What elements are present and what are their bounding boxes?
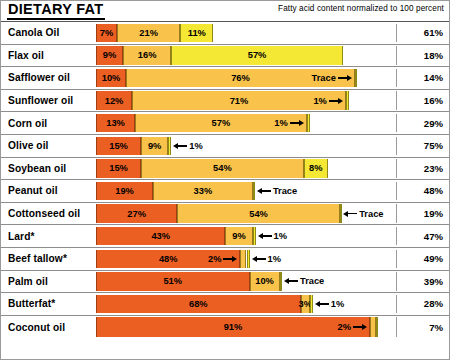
bar-segment-mono[interactable]: 33% xyxy=(153,182,252,200)
segment-value-label: 57% xyxy=(248,50,267,60)
bar-segment-poly[interactable] xyxy=(346,91,349,109)
row-label: Palm oil xyxy=(8,271,48,293)
bar-segment-sat[interactable]: 19% xyxy=(96,182,153,200)
segment-value-label: 76% xyxy=(231,73,250,83)
table-row[interactable]: Palm oil51%10%Trace39% xyxy=(1,271,449,294)
bar-segment-sat[interactable]: 10% xyxy=(96,69,126,87)
segment-value-label: 57% xyxy=(212,118,231,128)
row-remainder-value: 29% xyxy=(424,112,443,134)
chart-subtitle: Fatty acid content normalized to 100 per… xyxy=(278,4,444,13)
row-label: Butterfat* xyxy=(8,293,55,315)
dietary-fat-chart: DIETARY FAT Fatty acid content normalize… xyxy=(0,0,450,360)
segment-value-label: 16% xyxy=(138,50,157,60)
row-label: Peanut oil xyxy=(8,180,58,202)
row-label: Sunflower oil xyxy=(8,90,73,112)
segment-value-label: 68% xyxy=(189,299,208,309)
row-remainder-value: 61% xyxy=(424,22,443,44)
row-label: Soybean oil xyxy=(8,158,66,180)
row-label: Lard* xyxy=(8,225,35,247)
table-row[interactable]: Cottonseed oil27%54%Trace19% xyxy=(1,203,449,226)
bar-segment-poly[interactable] xyxy=(355,69,357,87)
bar-segment-mono[interactable]: 54% xyxy=(177,204,340,222)
bar-segment-poly[interactable] xyxy=(247,250,250,268)
segment-value-label: 10% xyxy=(102,73,121,83)
chart-rows: Canola Oil7%21%11%61%Flax oil9%16%57%18%… xyxy=(1,21,449,359)
segment-value-label: 9% xyxy=(232,231,245,241)
segment-value-label: 13% xyxy=(106,118,125,128)
segment-value-label: 12% xyxy=(105,96,124,106)
bar-segment-poly[interactable] xyxy=(253,227,256,245)
bar-segment-sat[interactable]: 91% xyxy=(96,317,370,336)
bar-track: 27%54%Trace xyxy=(96,204,395,222)
table-row[interactable]: Corn oil13%57%1%29% xyxy=(1,112,449,135)
bar-segment-mono[interactable]: 10% xyxy=(250,272,280,290)
bar-segment-poly[interactable] xyxy=(280,272,282,290)
segment-value-label: 71% xyxy=(230,96,249,106)
segment-value-label: 9% xyxy=(148,141,161,151)
table-row[interactable]: Flax oil9%16%57%18% xyxy=(1,45,449,68)
segment-value-label: 48% xyxy=(159,254,178,264)
row-remainder-value: 19% xyxy=(424,203,443,225)
table-row[interactable]: Lard*43%9%1%47% xyxy=(1,225,449,248)
bar-segment-poly[interactable] xyxy=(310,295,313,313)
bar-segment-poly[interactable] xyxy=(376,317,378,336)
bar-segment-mono[interactable]: 9% xyxy=(141,137,168,155)
bar-segment-sat[interactable]: 51% xyxy=(96,272,250,290)
bar-segment-sat[interactable]: 27% xyxy=(96,204,177,222)
bar-segment-mono[interactable]: 76% xyxy=(126,69,355,87)
segment-value-label: 51% xyxy=(163,276,182,286)
segment-value-label: 54% xyxy=(249,209,268,219)
bar-track: 15%9%1% xyxy=(96,137,395,155)
table-row[interactable]: Butterfat*68%3%1%28% xyxy=(1,293,449,316)
bar-track: 43%9%1% xyxy=(96,227,395,245)
segment-value-label: 8% xyxy=(309,163,322,173)
bar-segment-mono[interactable]: 3% xyxy=(301,295,310,313)
table-row[interactable]: Sunflower oil12%71%1%16% xyxy=(1,90,449,113)
bar-segment-poly[interactable]: 57% xyxy=(171,46,343,64)
bar-segment-poly[interactable] xyxy=(340,204,342,222)
page-title: DIETARY FAT xyxy=(7,2,105,20)
bar-segment-poly[interactable]: 8% xyxy=(304,159,328,177)
table-row[interactable]: Coconut oil91%2%7% xyxy=(1,316,449,339)
bar-segment-mono[interactable]: 57% xyxy=(135,114,307,132)
segment-value-label: 10% xyxy=(255,276,274,286)
bar-segment-poly[interactable] xyxy=(168,137,171,155)
bar-segment-mono[interactable]: 16% xyxy=(123,46,171,64)
table-row[interactable]: Beef tallow*48%2%1%49% xyxy=(1,248,449,271)
row-remainder-value: 39% xyxy=(424,271,443,293)
segment-value-label: 91% xyxy=(224,322,243,332)
bar-segment-mono[interactable]: 54% xyxy=(141,159,304,177)
bar-segment-mono[interactable]: 21% xyxy=(117,24,180,42)
segment-value-label: 43% xyxy=(151,231,170,241)
table-row[interactable]: Safflower oil10%76%Trace14% xyxy=(1,67,449,90)
bar-segment-sat[interactable]: 15% xyxy=(96,159,141,177)
row-label: Cottonseed oil xyxy=(8,203,80,225)
bar-track: 91%2% xyxy=(96,317,395,336)
segment-value-label: 27% xyxy=(127,209,146,219)
bar-segment-sat[interactable]: 12% xyxy=(96,91,132,109)
bar-segment-mono[interactable]: 71% xyxy=(132,91,346,109)
bar-track: 48%2%1% xyxy=(96,250,395,268)
bar-segment-sat[interactable]: 7% xyxy=(96,24,117,42)
bar-segment-poly[interactable] xyxy=(253,182,255,200)
bar-segment-poly[interactable] xyxy=(307,114,310,132)
table-row[interactable]: Peanut oil19%33%Trace48% xyxy=(1,180,449,203)
segment-value-label: 33% xyxy=(194,186,213,196)
bar-segment-sat[interactable]: 48% xyxy=(96,250,240,268)
table-row[interactable]: Olive oil15%9%1%75% xyxy=(1,135,449,158)
bar-segment-sat[interactable]: 43% xyxy=(96,227,225,245)
bar-segment-sat[interactable]: 9% xyxy=(96,46,123,64)
bar-segment-mono[interactable]: 9% xyxy=(225,227,252,245)
row-label: Coconut oil xyxy=(8,316,65,339)
bar-segment-poly[interactable]: 11% xyxy=(180,24,213,42)
bar-track: 9%16%57% xyxy=(96,46,395,64)
bar-track: 19%33%Trace xyxy=(96,182,395,200)
bar-segment-sat[interactable]: 15% xyxy=(96,137,141,155)
bar-segment-sat[interactable]: 13% xyxy=(96,114,135,132)
table-row[interactable]: Soybean oil15%54%8%23% xyxy=(1,158,449,181)
bar-track: 51%10%Trace xyxy=(96,272,395,290)
segment-value-label: 19% xyxy=(115,186,134,196)
segment-value-label: 11% xyxy=(188,28,206,38)
bar-segment-sat[interactable]: 68% xyxy=(96,295,301,313)
table-row[interactable]: Canola Oil7%21%11%61% xyxy=(1,22,449,45)
